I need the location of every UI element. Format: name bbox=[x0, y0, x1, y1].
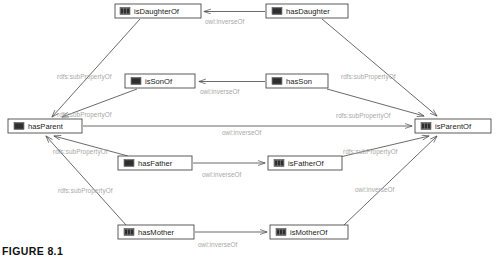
property-icon bbox=[124, 229, 134, 236]
node-label: hasSon bbox=[286, 77, 312, 86]
node-isDaughterOf[interactable]: isDaughterOf bbox=[115, 4, 201, 18]
edge-hasParent-isParentOf: owl:inverseOf bbox=[83, 126, 412, 136]
edge-label: rdfs:subPropertyOf bbox=[57, 111, 112, 119]
edge-label: owl:inverseOf bbox=[355, 186, 395, 193]
node-label: isFatherOf bbox=[288, 159, 325, 168]
edge-hasSon-isSonOf: owl:inverseOf bbox=[199, 82, 265, 96]
node-isFatherOf[interactable]: isFatherOf bbox=[268, 156, 342, 170]
property-icon bbox=[120, 8, 130, 15]
edge-isDaughterOf-hasParent: rdfs:subPropertyOf bbox=[52, 19, 140, 117]
edge-label: rdfs:subPropertyOf bbox=[336, 112, 391, 120]
edge-hasDaughter-isParentOf: rdfs:subPropertyOf bbox=[322, 19, 437, 116]
nodes-layer: isDaughterOf hasDaughter isSonOf bbox=[8, 4, 491, 239]
edge-label: rdfs:subPropertyOf bbox=[58, 187, 113, 195]
property-icon bbox=[272, 78, 282, 85]
edge-label: owl:inverseOf bbox=[200, 88, 240, 95]
edge-isSonOf-hasParent: rdfs:subPropertyOf bbox=[57, 89, 137, 119]
figure-caption: FIGURE 8.1 bbox=[2, 245, 63, 257]
property-icon bbox=[14, 123, 24, 130]
edges-layer: owl:inverseOf owl:inverseOf owl:inverseO… bbox=[46, 12, 437, 249]
edge-label: owl:inverseOf bbox=[202, 171, 242, 178]
node-label: hasMother bbox=[138, 228, 175, 237]
node-label: isDaughterOf bbox=[134, 7, 180, 16]
edge-label: rdfs:subPropertyOf bbox=[57, 73, 112, 81]
property-icon bbox=[131, 78, 141, 85]
node-isMotherOf[interactable]: isMotherOf bbox=[270, 225, 348, 239]
property-icon bbox=[124, 160, 134, 167]
edge-label: rdfs:subPropertyOf bbox=[343, 148, 398, 156]
edge-label: owl:inverseOf bbox=[222, 129, 262, 136]
ontology-diagram: owl:inverseOf owl:inverseOf owl:inverseO… bbox=[0, 0, 497, 264]
node-hasSon[interactable]: hasSon bbox=[266, 74, 328, 88]
node-label: hasDaughter bbox=[286, 7, 330, 16]
edge-hasFather-hasParent: rdfs:subPropertyOf bbox=[53, 136, 128, 156]
node-hasDaughter[interactable]: hasDaughter bbox=[266, 4, 348, 18]
node-label: hasParent bbox=[28, 122, 64, 131]
node-label: isParentOf bbox=[435, 122, 472, 131]
edge-label: owl:inverseOf bbox=[205, 18, 245, 25]
node-hasFather[interactable]: hasFather bbox=[118, 156, 192, 170]
edge-hasDaughter-isDaughterOf: owl:inverseOf bbox=[204, 12, 265, 26]
node-isSonOf[interactable]: isSonOf bbox=[125, 74, 195, 88]
node-label: hasFather bbox=[138, 159, 173, 168]
figure-container: owl:inverseOf owl:inverseOf owl:inverseO… bbox=[0, 0, 497, 264]
edge-isFatherOf-isParentOf: rdfs:subPropertyOf bbox=[340, 136, 429, 157]
node-hasParent[interactable]: hasParent bbox=[8, 119, 82, 133]
property-icon bbox=[421, 123, 431, 130]
edge-hasSon-isParentOf: rdfs:subPropertyOf bbox=[327, 89, 424, 120]
edge-label: owl:inverseOf bbox=[198, 241, 238, 248]
property-icon bbox=[276, 229, 286, 236]
edge-line bbox=[322, 19, 437, 116]
edge-line bbox=[52, 19, 140, 117]
node-isParentOf[interactable]: isParentOf bbox=[415, 119, 491, 133]
property-icon bbox=[274, 160, 284, 167]
edge-hasMother-isMotherOf: owl:inverseOf bbox=[195, 232, 267, 248]
edge-label: rdfs:subPropertyOf bbox=[53, 148, 108, 156]
node-label: isMotherOf bbox=[290, 228, 328, 237]
node-hasMother[interactable]: hasMother bbox=[118, 225, 194, 239]
node-label: isSonOf bbox=[145, 77, 173, 86]
edge-label: rdfs:subPropertyOf bbox=[341, 73, 396, 81]
property-icon bbox=[272, 8, 282, 15]
edge-hasFather-isFatherOf: owl:inverseOf bbox=[193, 163, 265, 178]
